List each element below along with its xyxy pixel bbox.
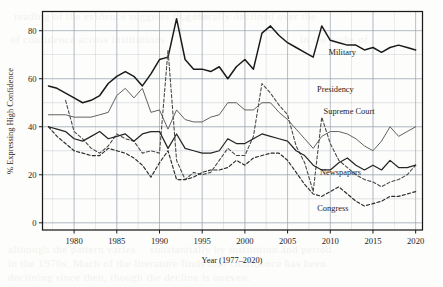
y-axis-ticks: 020406080 <box>28 26 43 228</box>
series-line-newspapers <box>48 127 415 170</box>
y-tick-label: 0 <box>32 218 36 228</box>
x-tick-label: 1990 <box>151 236 168 246</box>
series-line-congress <box>48 127 415 206</box>
grid-major <box>43 12 423 231</box>
series-label-presidency: Presidency <box>317 85 355 94</box>
series-line-military <box>48 19 415 103</box>
x-tick-label: 2010 <box>322 236 339 246</box>
x-axis-title: Year (1977–2020) <box>202 256 263 265</box>
series-line-presidency <box>66 50 416 192</box>
plot-frame <box>43 12 423 231</box>
series-label-newspapers: Newspapers <box>320 168 361 177</box>
x-tick-label: 1980 <box>66 236 83 246</box>
x-tick-label: 1985 <box>108 236 125 246</box>
series-label-supreme-court: Supreme Court <box>324 107 376 116</box>
x-tick-label: 2005 <box>279 236 296 246</box>
y-tick-label: 20 <box>28 170 37 180</box>
series-label-congress: Congress <box>317 204 348 213</box>
y-tick-label: 60 <box>28 74 37 84</box>
series-label-military: Military <box>329 48 357 57</box>
grid-minor <box>43 12 423 231</box>
y-tick-label: 40 <box>28 122 37 132</box>
x-tick-label: 2015 <box>364 236 381 246</box>
x-axis-ticks: 198019851990199520002005201020152020 <box>66 230 425 246</box>
x-tick-label: 2000 <box>236 236 253 246</box>
x-tick-label: 1995 <box>194 236 211 246</box>
plot-border <box>43 12 423 231</box>
y-axis-title: % Expressing High Confidence <box>6 68 15 174</box>
x-tick-label: 2020 <box>407 236 424 246</box>
y-tick-label: 80 <box>28 26 37 36</box>
